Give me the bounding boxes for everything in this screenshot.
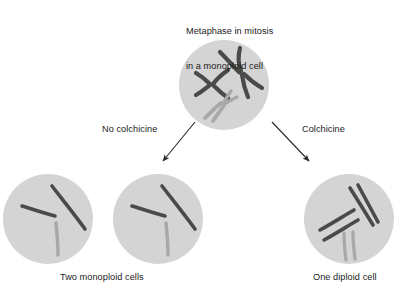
monoploid-daughter-cell-1 [3,174,93,264]
branch-label-colchicine: Colchicine [302,124,345,136]
caption-one-diploid-cell: One diploid cell [313,272,377,284]
chromosome-light-pair-a [344,233,346,260]
chromosome-light-pair-b [353,232,355,259]
caption-two-monoploid-cells: Two monoploid cells [60,272,144,284]
branch-label-no-colchicine: No colchicine [102,124,157,136]
figure-title-line2: in a monoploid cell [186,61,273,73]
chromosome-light-vertical [56,223,58,255]
chromosome-light-vertical [166,223,168,255]
diploid-cell [304,174,394,264]
figure-title: Metaphase in mitosis in a monoploid cell [186,3,273,96]
colchicine-mitosis-diagram: Metaphase in mitosis in a monoploid cell… [0,0,413,296]
monoploid-daughter-cell-2 [113,174,203,264]
arrow-no-colchicine [163,122,195,161]
figure-title-line1: Metaphase in mitosis [186,26,273,38]
